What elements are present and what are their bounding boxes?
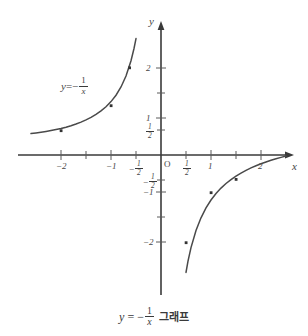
curve-equation-label: y=−1x <box>61 76 89 96</box>
x-tick-label-2: 2 <box>258 162 263 171</box>
graph-figure: y x O −2 −1 −12 12 1 2 2 1 12 −12 −1 −2 … <box>0 0 308 336</box>
caption-minus: − <box>137 310 144 324</box>
caption-korean-word: 그래프 <box>159 311 189 324</box>
y-tick-half-denominator: 2 <box>146 131 154 140</box>
caption-equation: y = −1x <box>119 310 155 324</box>
x-tick-neghalf-minus: − <box>129 164 134 174</box>
x-axis <box>18 152 294 159</box>
y-tick-half-fraction: 12 <box>146 123 154 140</box>
y-tick-half-numerator: 1 <box>146 123 154 131</box>
x-tick-neghalf-denominator: 2 <box>135 168 143 177</box>
curve-label-fraction: 1x <box>79 76 88 96</box>
caption-denominator: x <box>145 316 154 327</box>
curve-label-numerator: 1 <box>79 76 88 86</box>
x-tick-neghalf-numerator: 1 <box>135 160 143 168</box>
y-axis <box>158 21 165 295</box>
x-axis-label: x <box>292 161 297 172</box>
x-tick-half-numerator: 1 <box>183 160 191 168</box>
x-tick-half-fraction: 12 <box>183 160 191 177</box>
y-tick-label-2: 2 <box>146 64 151 73</box>
y-tick-neghalf-numerator: 1 <box>149 173 157 181</box>
x-tick-label-1: 1 <box>208 162 213 171</box>
point-neghalf-2 <box>128 66 131 69</box>
caption-lhs: y <box>119 310 124 324</box>
x-tick-label-neg2: −2 <box>56 162 67 171</box>
point-1-neg1 <box>210 191 213 194</box>
x-tick-label-half: 12 <box>182 160 192 177</box>
point-2-neghalf <box>235 178 238 181</box>
curve-right-branch <box>186 156 286 272</box>
point-neg1-1 <box>110 104 113 107</box>
y-axis-label: y <box>149 16 154 27</box>
y-tick-label-neg2: −2 <box>143 238 154 247</box>
curve-label-denominator: x <box>79 86 88 97</box>
point-neg2-half <box>60 129 63 132</box>
caption-fraction: 1x <box>145 306 154 328</box>
caption-equals: = <box>127 310 134 324</box>
y-tick-label-neg1: −1 <box>143 188 154 197</box>
origin-label: O <box>164 160 171 169</box>
caption-numerator: 1 <box>145 306 154 316</box>
x-tick-label-neg1: −1 <box>106 162 117 171</box>
x-tick-half-denominator: 2 <box>183 168 191 177</box>
x-tick-neghalf-fraction: 12 <box>135 160 143 177</box>
y-tick-neghalf-minus: − <box>143 177 148 187</box>
x-tick-label-neg-half: −12 <box>129 160 144 177</box>
point-half-neg2 <box>185 241 188 244</box>
y-tick-label-half: 12 <box>145 123 155 140</box>
curve-label-minus: − <box>72 80 78 92</box>
figure-caption: y = −1x그래프 <box>0 306 308 328</box>
